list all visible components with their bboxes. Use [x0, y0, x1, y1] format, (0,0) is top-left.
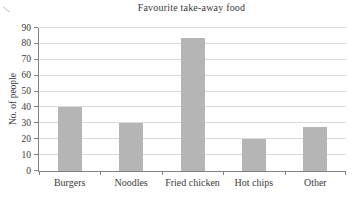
- bar-other: [303, 127, 327, 171]
- y-axis-title: No. of people: [8, 73, 18, 125]
- x-category-label-burgers: Burgers: [54, 178, 85, 188]
- y-tick-label-50: 50: [22, 87, 32, 97]
- y-tick-mark-10: [34, 154, 38, 155]
- x-tick-mark-4: [285, 171, 286, 175]
- bar-noodles: [119, 123, 143, 171]
- y-tick-label-10: 10: [22, 150, 32, 160]
- x-tick-mark-1: [100, 171, 101, 175]
- x-category-label-hot-chips: Hot chips: [235, 178, 274, 188]
- x-tick-mark-3: [223, 171, 224, 175]
- plot-area: 0102030405060708090BurgersNoodlesFried c…: [38, 28, 346, 172]
- y-tick-mark-30: [34, 122, 38, 123]
- y-tick-mark-0: [34, 170, 38, 171]
- y-tick-mark-90: [34, 27, 38, 28]
- y-tick-mark-80: [34, 43, 38, 44]
- y-tick-mark-20: [34, 138, 38, 139]
- y-tick-label-30: 30: [22, 119, 32, 129]
- bar-chart: Favourite take-away food No. of people 0…: [0, 0, 355, 201]
- x-tick-mark-0: [39, 171, 40, 175]
- gridline-y-90: [39, 27, 346, 28]
- y-tick-label-20: 20: [22, 134, 32, 144]
- y-tick-mark-50: [34, 91, 38, 92]
- y-tick-label-70: 70: [22, 55, 32, 65]
- chart-title: Favourite take-away food: [38, 2, 345, 13]
- x-category-label-noodles: Noodles: [114, 178, 147, 188]
- x-tick-mark-5: [345, 171, 346, 175]
- y-tick-mark-60: [34, 75, 38, 76]
- y-tick-label-0: 0: [26, 166, 31, 176]
- y-tick-mark-70: [34, 59, 38, 60]
- x-category-label-other: Other: [304, 178, 327, 188]
- y-tick-label-80: 80: [22, 39, 32, 49]
- y-tick-label-60: 60: [22, 71, 32, 81]
- bar-hot-chips: [242, 139, 266, 171]
- bar-burgers: [58, 107, 82, 171]
- scan-artifact-mark: [3, 6, 11, 12]
- x-category-label-fried-chicken: Fried chicken: [165, 178, 220, 188]
- x-tick-mark-2: [162, 171, 163, 175]
- y-tick-label-40: 40: [22, 103, 32, 113]
- y-tick-mark-40: [34, 106, 38, 107]
- y-tick-label-90: 90: [22, 23, 32, 33]
- bar-fried-chicken: [181, 38, 205, 171]
